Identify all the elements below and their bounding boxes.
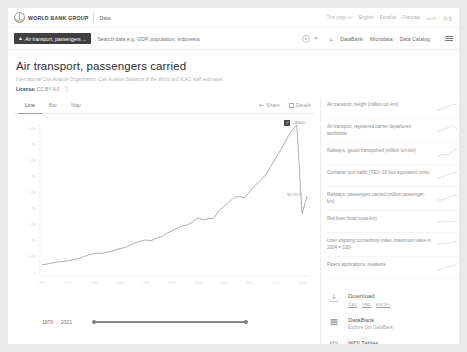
language-arabic[interactable]: عربي xyxy=(426,15,437,20)
info-icon[interactable]: ⓘ xyxy=(64,87,69,92)
related-indicators-list: Air transport, freight (million ton-km) … xyxy=(327,97,458,279)
series-annotation-world: WORLD xyxy=(287,192,302,197)
list-item[interactable]: Container port traffic (TEU: 20 foot equ… xyxy=(327,165,458,187)
sparkline-icon xyxy=(436,262,458,273)
databank-icon xyxy=(327,317,341,327)
list-item[interactable]: Patent applications, residents xyxy=(327,257,458,279)
language-french[interactable]: Français xyxy=(402,15,420,20)
svg-text:2020: 2020 xyxy=(298,281,306,285)
table-icon xyxy=(327,340,341,344)
share-button[interactable]: ⇤ Share xyxy=(259,102,279,108)
globe-selector-icon[interactable] xyxy=(302,35,310,43)
related-indicator-label: Railways, goods transported (million ton… xyxy=(327,148,432,155)
sidebar-column: Air transport, freight (million ton-km) … xyxy=(320,97,458,344)
related-indicator-label: Liner shipping connectivity index (maxim… xyxy=(327,238,432,251)
svg-text:1B: 1B xyxy=(32,239,37,243)
chevron-down-icon[interactable] xyxy=(314,37,318,40)
svg-text:1995: 1995 xyxy=(168,281,176,285)
language-label: This page in: xyxy=(326,15,352,20)
world-bank-logo[interactable]: WORLD BANK GROUP xyxy=(14,12,88,23)
title-block: Air transport, passengers carried Intern… xyxy=(8,50,459,97)
home-icon[interactable]: ⌂ xyxy=(330,36,334,42)
language-spanish[interactable]: Español xyxy=(380,15,397,20)
sparkline-icon xyxy=(436,216,458,227)
page-title: Air transport, passengers carried xyxy=(16,60,451,72)
year-range-slider[interactable] xyxy=(94,321,246,323)
wdi-tables-row[interactable]: WDI Tables Thematic data tables from WDI xyxy=(327,335,458,344)
license-row: License: CC BY-4.0 ⓘ xyxy=(16,85,451,92)
chart-icon: ▲ xyxy=(18,36,23,41)
details-button[interactable]: Details xyxy=(289,102,311,108)
svg-text:4.5B: 4.5B xyxy=(29,127,37,131)
legend-checkbox[interactable]: ✓ xyxy=(284,120,290,126)
list-item[interactable]: Railways, goods transported (million ton… xyxy=(327,143,458,165)
share-icon: ⇤ xyxy=(259,102,264,108)
line-chart-svg[interactable]: 4.5B 4B 3.5B 3B 2.5B 2B 1.5B 1B 500M 0 1… xyxy=(14,118,314,303)
download-link-xml[interactable]: XML xyxy=(362,302,371,307)
svg-text:2.5B: 2.5B xyxy=(29,191,37,195)
databank-text: DataBank Explore Our DataBank xyxy=(348,317,393,330)
download-icon xyxy=(327,293,341,303)
related-indicator-label: Patent applications, residents xyxy=(327,262,432,269)
active-indicator-chip[interactable]: ▲ Air transport, passengers ... xyxy=(14,33,91,44)
list-item[interactable]: Air transport, freight (million ton-km) xyxy=(327,97,458,119)
actions-section: Download CSV XML EXCEL xyxy=(327,288,458,344)
utility-topbar: WORLD BANK GROUP Data This page in: Engl… xyxy=(8,8,459,28)
svg-text:1985: 1985 xyxy=(116,281,124,285)
related-indicator-label: Container port traffic (TEU: 20 foot equ… xyxy=(327,170,432,177)
language-bar: This page in: English Español Français ع… xyxy=(326,15,453,21)
tab-map[interactable]: Map xyxy=(64,97,88,114)
range-end-year[interactable]: 2021 xyxy=(61,319,72,325)
range-start-year[interactable]: 1970 xyxy=(42,319,53,325)
logo-divider xyxy=(93,12,94,23)
list-item[interactable]: Railways, passengers carried (million pa… xyxy=(327,187,458,211)
sparkline-icon xyxy=(436,238,458,249)
wdi-tables-text: WDI Tables Thematic data tables from WDI xyxy=(348,340,410,344)
list-item[interactable]: Air transport, registered carrier depart… xyxy=(327,119,458,143)
sparkline-icon xyxy=(436,148,458,159)
tab-bar[interactable]: Bar xyxy=(42,97,64,114)
list-item[interactable]: Rail lines (total route-km) xyxy=(327,211,458,233)
chart-area[interactable]: 4.5B 4B 3.5B 3B 2.5B 2B 1.5B 1B 500M 0 1… xyxy=(14,118,314,303)
section-label[interactable]: Data xyxy=(99,15,110,21)
series-line-world[interactable] xyxy=(42,125,307,265)
databank-title: DataBank xyxy=(348,317,393,323)
language-chinese[interactable]: 中文 xyxy=(443,15,453,21)
chart-column: Line Bar Map ⇤ Share Details xyxy=(14,97,314,344)
svg-text:500M: 500M xyxy=(27,255,36,259)
details-icon xyxy=(289,103,294,108)
license-value[interactable]: CC BY-4.0 xyxy=(37,87,60,92)
search-input[interactable] xyxy=(97,36,237,42)
share-label: Share xyxy=(266,102,279,108)
download-link-csv[interactable]: CSV xyxy=(348,302,357,307)
list-item[interactable]: Liner shipping connectivity index (maxim… xyxy=(327,233,458,257)
main-navbar: ▲ Air transport, passengers ... ⌂ DataBa… xyxy=(8,28,459,50)
chart-tools: ⇤ Share Details xyxy=(259,102,314,108)
download-link-excel[interactable]: EXCEL xyxy=(376,302,390,307)
svg-text:4B: 4B xyxy=(32,143,37,147)
nav-globe-group[interactable] xyxy=(302,35,318,43)
svg-text:3.5B: 3.5B xyxy=(29,159,37,163)
tab-line[interactable]: Line xyxy=(18,97,42,114)
svg-text:2B: 2B xyxy=(32,207,37,211)
hamburger-icon[interactable] xyxy=(445,36,453,42)
legend-label: LABEL xyxy=(292,120,306,125)
databank-subtitle: Explore Our DataBank xyxy=(348,325,393,330)
wdi-tables-title: WDI Tables xyxy=(348,340,410,344)
globe-icon xyxy=(14,12,25,23)
chart-legend[interactable]: ✓ LABEL xyxy=(284,120,306,126)
download-row[interactable]: Download CSV XML EXCEL xyxy=(327,288,458,312)
svg-text:2000: 2000 xyxy=(194,281,202,285)
nav-link-microdata[interactable]: Microdata xyxy=(370,36,393,42)
databank-row[interactable]: DataBank Explore Our DataBank xyxy=(327,312,458,335)
related-indicator-label: Air transport, freight (million ton-km) xyxy=(327,102,432,109)
sparkline-icon xyxy=(436,102,458,113)
chart-tab-bar: Line Bar Map ⇤ Share Details xyxy=(14,97,314,114)
language-english[interactable]: English xyxy=(359,15,374,20)
related-indicator-label: Rail lines (total route-km) xyxy=(327,216,432,223)
svg-text:0: 0 xyxy=(34,271,36,275)
nav-link-data-catalog[interactable]: Data Catalog xyxy=(400,36,430,42)
nav-link-databank[interactable]: DataBank xyxy=(340,36,363,42)
sparkline-icon xyxy=(436,192,458,203)
year-range-control[interactable]: 1970 - 2021 xyxy=(14,313,314,331)
